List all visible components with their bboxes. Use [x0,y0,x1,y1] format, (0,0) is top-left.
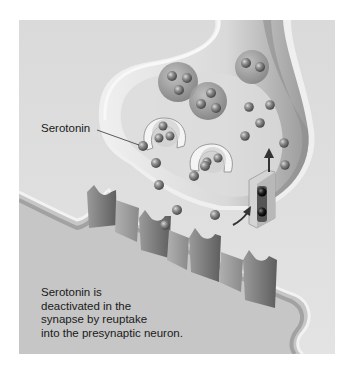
caption-line: into the presynaptic neuron. [41,327,183,341]
caption-line: Serotonin is [41,286,183,300]
reuptake-transporter [249,170,275,228]
caption-line: synapse by reuptake [41,313,183,327]
caption-line: deactivated in the [41,300,183,314]
synapse-illustration: Serotonin Serotonin is deactivated in th… [19,20,335,354]
figure-caption: Serotonin is deactivated in the synapse … [41,286,183,340]
serotonin-label: Serotonin [41,122,90,135]
labeled-serotonin-molecule [138,141,148,151]
